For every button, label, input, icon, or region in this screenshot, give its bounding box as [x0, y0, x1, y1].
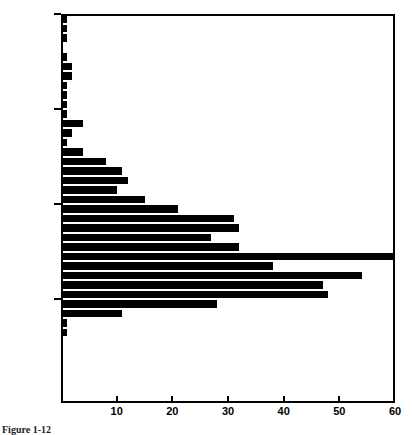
histogram-bar — [61, 63, 72, 71]
histogram-bar — [61, 262, 273, 270]
x-axis-origin-tick — [61, 394, 63, 403]
histogram-bar — [61, 25, 67, 33]
x-axis-end-tick — [393, 394, 395, 403]
x-axis-label: 60 — [380, 405, 410, 417]
y-axis-tick — [54, 13, 61, 15]
histogram-bar — [61, 139, 67, 147]
histogram-bar — [61, 234, 211, 242]
histogram-bar — [61, 177, 128, 185]
histogram-bar — [61, 205, 178, 213]
histogram-bar — [61, 291, 328, 299]
histogram-bar — [61, 272, 362, 280]
x-axis-tick — [171, 396, 173, 403]
histogram-bar — [61, 34, 67, 42]
histogram-bar — [61, 91, 67, 99]
histogram-bar — [61, 319, 67, 327]
histogram-bar — [61, 15, 67, 23]
x-axis-label: 40 — [269, 405, 299, 417]
x-axis-label: 10 — [102, 405, 132, 417]
histogram-bar — [61, 158, 106, 166]
bars-layer — [61, 14, 395, 394]
histogram-bar — [61, 129, 72, 137]
figure-caption: Figure 1-12 — [2, 424, 51, 435]
plot-area — [61, 14, 395, 394]
x-axis-tick — [227, 396, 229, 403]
x-axis-label: 20 — [157, 405, 187, 417]
x-axis-tick — [116, 396, 118, 403]
histogram-bar — [61, 110, 67, 118]
histogram-bar — [61, 243, 239, 251]
y-axis-tick — [54, 203, 61, 205]
histogram-bar — [61, 329, 67, 337]
histogram-bar — [61, 167, 122, 175]
x-axis-label: 30 — [213, 405, 243, 417]
histogram-bar — [61, 196, 145, 204]
histogram-bar — [61, 120, 83, 128]
histogram-bar — [61, 101, 67, 109]
histogram-bar — [61, 281, 323, 289]
histogram-bar — [61, 82, 67, 90]
x-axis-label: 50 — [324, 405, 354, 417]
histogram-bar — [61, 224, 239, 232]
y-axis-tick — [54, 108, 61, 110]
histogram-bar — [61, 72, 72, 80]
histogram-bar — [61, 300, 217, 308]
histogram-bar — [61, 253, 395, 261]
histogram-bar — [61, 53, 67, 61]
histogram-bar — [61, 310, 122, 318]
histogram-bar — [61, 215, 234, 223]
histogram-bar — [61, 148, 83, 156]
x-axis-tick — [283, 396, 285, 403]
x-axis-tick — [338, 396, 340, 403]
histogram-bar — [61, 186, 117, 194]
y-axis-tick — [54, 298, 61, 300]
